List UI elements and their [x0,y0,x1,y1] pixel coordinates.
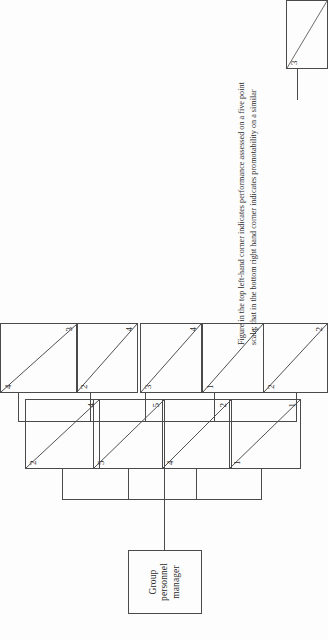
node-detached-1[interactable]: 3 [286,0,328,69]
diagonal-divider-icon [264,324,327,392]
node-upper-3-promotability: 5 [152,403,161,408]
node-upper-2-performance: 4 [166,461,175,466]
node-lower-1-promotability: 2 [315,327,324,332]
node-lower-1-performance: 2 [267,385,276,390]
node-lower-4[interactable]: 2 4 [76,323,138,393]
connector-lower-stub-4 [90,392,91,422]
diagonal-divider-icon [1,324,77,392]
connector-lower-stub-2 [214,392,215,422]
node-upper-2[interactable]: 4 2 [162,399,232,469]
connector-upper-spine [62,499,165,500]
node-upper-4-performance: 2 [29,461,38,466]
connector-upper-stub-1 [261,468,262,500]
connector-upper-stub-2 [196,468,197,500]
diagonal-divider-icon [141,324,201,392]
diagonal-divider-icon [287,1,327,68]
node-lower-4-promotability: 4 [125,327,134,332]
org-chart-stage: Group personnel manager 2 4 5 5 [0,0,328,640]
connector-lower-stub-5 [18,392,19,422]
connector-lower-stub-1 [296,392,297,422]
node-upper-1[interactable]: 1 1 [229,399,301,469]
node-lower-3-performance: 3 [144,385,153,390]
node-root-label: Group personnel manager [148,554,182,610]
connector-detached-stub [297,68,298,100]
node-root[interactable]: Group personnel manager [128,550,202,614]
node-lower-2-performance: 1 [206,385,215,390]
connector-lower-spine-upper [18,421,165,422]
diagonal-divider-icon [163,400,231,468]
connector-upper-stub-4 [62,468,63,500]
connector-upper-stub-3 [128,468,129,500]
node-upper-1-performance: 1 [233,461,242,466]
diagonal-divider-icon [230,400,300,468]
node-lower-1[interactable]: 2 2 [263,323,328,393]
node-upper-2-promotability: 2 [219,403,228,408]
diagonal-divider-icon [26,400,99,468]
node-detached-1-performance: 3 [290,61,299,66]
node-upper-3[interactable]: 5 5 [93,399,165,469]
figure-caption-line-2: scale; that in the bottom right hand cor… [248,15,260,345]
page-viewport: Group personnel manager 2 4 5 5 [0,0,328,640]
node-lower-5-performance: 4 [4,385,13,390]
node-lower-5[interactable]: 4 3 [0,323,78,393]
node-lower-3-promotability: 4 [189,327,198,332]
figure-caption: Figure in the top left-hand corner indic… [236,15,260,345]
connector-upper-spine-lower [164,499,262,500]
figure-caption-line-1: Figure in the top left-hand corner indic… [236,15,248,345]
node-upper-3-performance: 5 [97,461,106,466]
node-lower-4-performance: 2 [80,385,89,390]
diagonal-divider-icon [94,400,164,468]
diagonal-divider-icon [77,324,137,392]
connector-lower-spine-lower [164,421,297,422]
node-lower-3[interactable]: 3 4 [140,323,202,393]
connector-lower-stub-3 [145,392,146,422]
node-upper-4[interactable]: 2 4 [25,399,100,469]
node-lower-5-promotability: 3 [65,327,74,332]
